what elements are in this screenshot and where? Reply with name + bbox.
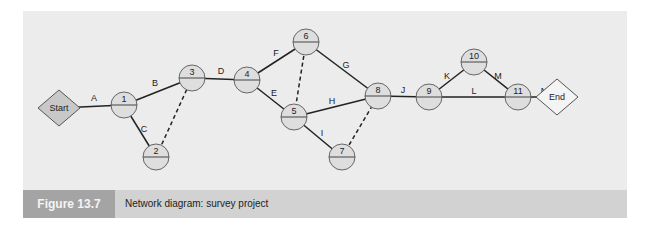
node-number: 4	[244, 69, 249, 79]
node-number: 3	[189, 67, 194, 77]
event-node-6: 6	[293, 29, 319, 55]
activity-label: L	[471, 86, 476, 96]
start-label: Start	[49, 103, 69, 113]
activity-label: A	[91, 93, 97, 103]
activity-label: E	[271, 88, 277, 98]
event-node-4: 4	[234, 67, 260, 93]
node-number: 6	[303, 31, 308, 41]
activity-label: J	[401, 85, 406, 95]
activity-label: D	[218, 66, 225, 76]
event-node-9: 9	[416, 84, 442, 110]
activity-label: M	[494, 71, 502, 81]
event-node-10: 10	[461, 49, 487, 75]
event-node-11: 11	[505, 84, 531, 110]
node-number: 5	[291, 106, 296, 116]
event-node-5: 5	[281, 104, 307, 130]
activity-label: G	[342, 60, 349, 70]
activity-label: B	[152, 78, 158, 88]
figure-caption-bar: Figure 13.7 Network diagram: survey proj…	[23, 190, 627, 218]
event-node-3: 3	[179, 65, 205, 91]
activity-label: I	[321, 128, 324, 138]
node-number: 8	[375, 85, 380, 95]
event-nodes: 1234567891011	[111, 29, 531, 170]
figure-title: Network diagram: survey project	[115, 190, 268, 218]
node-number: 9	[426, 86, 431, 96]
node-number: 11	[513, 86, 522, 96]
node-number: 1	[121, 94, 126, 104]
activity-label: C	[141, 124, 148, 134]
node-number: 10	[469, 51, 479, 61]
activity-label: K	[444, 71, 450, 81]
event-node-2: 2	[143, 144, 169, 170]
node-number: 7	[339, 146, 344, 156]
activity-label: H	[329, 96, 336, 106]
end-label: End	[549, 92, 565, 102]
node-number: 2	[153, 146, 158, 156]
event-node-1: 1	[111, 92, 137, 118]
activity-label: F	[273, 48, 279, 58]
event-node-8: 8	[365, 83, 391, 109]
event-node-7: 7	[329, 144, 355, 170]
figure-number: Figure 13.7	[23, 190, 115, 218]
